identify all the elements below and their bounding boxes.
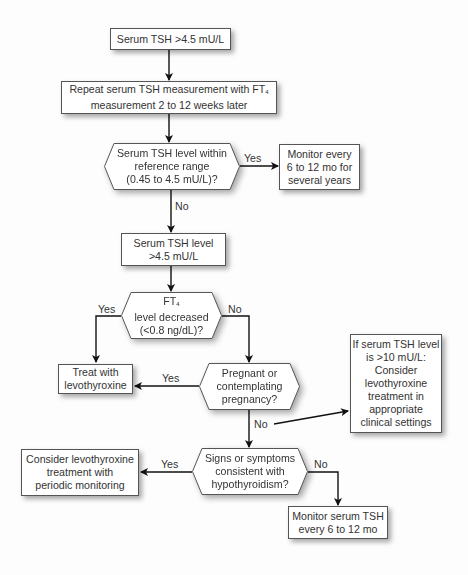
node-within-range: Serum TSH level within reference range (… <box>104 143 240 190</box>
node-within-line-1: Serum TSH level within <box>117 147 227 160</box>
node-consider-line-2: treatment with <box>47 466 114 479</box>
node-monitor-tsh: Monitor serum TSH every 6 to 12 mo <box>288 506 388 539</box>
node-tsh10-line-4: levothyroxine <box>365 377 427 390</box>
node-tsh-over-10: If serum TSH level is >10 mU/L: Consider… <box>350 334 442 433</box>
edge-ft4-no <box>222 316 249 362</box>
node-tsh10-line-7: clinical settings <box>360 416 431 429</box>
node-monitor-years-line-1: Monitor every <box>287 148 351 161</box>
label-signs-no: No <box>314 458 328 470</box>
label-pregnant-no: No <box>254 418 268 430</box>
node-tsh-high-line-2: >4.5 mU/L <box>149 250 198 263</box>
node-tsh10-line-6: appropriate <box>369 403 423 416</box>
node-signs-line-3: hypothyroidism? <box>211 478 288 491</box>
node-repeat: Repeat serum TSH measurement with FT4 me… <box>61 81 277 114</box>
node-monitor-tsh-line-2: every 6 to 12 mo <box>299 523 378 536</box>
node-monitor-years-line-3: several years <box>288 174 351 187</box>
edge-pregnant-no-right <box>274 411 348 424</box>
node-signs-symptoms: Signs or symptoms consistent with hypoth… <box>192 448 308 495</box>
node-repeat-line-2: measurement 2 to 12 weeks later <box>91 99 248 112</box>
node-tsh-high: Serum TSH level >4.5 mU/L <box>121 233 226 266</box>
node-monitor-years-line-2: 6 to 12 mo for <box>287 161 352 174</box>
node-monitor-years: Monitor every 6 to 12 mo for several yea… <box>279 144 360 190</box>
label-within-no: No <box>175 200 189 212</box>
node-tsh-high-line-1: Serum TSH level <box>134 237 214 250</box>
node-ft4-line-3: (<0.8 ng/dL)? <box>140 324 203 337</box>
label-within-yes: Yes <box>244 152 261 164</box>
node-consider-periodic: Consider levothyroxine treatment with pe… <box>21 449 139 496</box>
node-start: Serum TSH >4.5 mU/L <box>110 28 231 50</box>
node-repeat-line-1: Repeat serum TSH measurement with FT4 <box>69 83 268 99</box>
node-within-line-3: (0.45 to 4.5 mU/L)? <box>126 173 217 186</box>
node-tsh10-line-2: is >10 mU/L: <box>366 351 426 364</box>
node-pregnant-line-2: contemplating <box>217 380 283 393</box>
node-signs-line-2: consistent with <box>215 465 284 478</box>
node-consider-line-3: periodic monitoring <box>35 479 125 492</box>
label-signs-yes: Yes <box>161 458 178 470</box>
node-pregnant-line-1: Pregnant or <box>222 367 277 380</box>
node-tsh10-line-1: If serum TSH level <box>353 338 440 351</box>
flowchart-canvas: Serum TSH >4.5 mU/L Repeat serum TSH mea… <box>0 0 468 575</box>
edge-ft4-yes <box>96 316 121 362</box>
node-treat-line-2: levothyroxine <box>64 379 126 392</box>
node-pregnant-line-3: pregnancy? <box>222 393 277 406</box>
node-ft4-line-1: FT4 <box>163 295 179 311</box>
node-treat-line-1: Treat with <box>72 366 118 379</box>
node-consider-line-1: Consider levothyroxine <box>26 453 134 466</box>
node-start-text: Serum TSH >4.5 mU/L <box>117 33 224 46</box>
edge-signs-no <box>308 472 338 505</box>
node-ft4-decreased: FT4 level decreased (<0.8 ng/dL)? <box>121 292 222 339</box>
node-treat: Treat with levothyroxine <box>58 364 133 394</box>
node-within-line-2: reference range <box>135 160 210 173</box>
label-ft4-no: No <box>228 303 242 315</box>
label-ft4-yes: Yes <box>98 303 115 315</box>
node-tsh10-line-5: treatment in <box>368 390 424 403</box>
node-signs-line-1: Signs or symptoms <box>205 452 295 465</box>
node-tsh10-line-3: Consider <box>375 364 417 377</box>
node-pregnant: Pregnant or contemplating pregnancy? <box>199 363 300 410</box>
node-ft4-line-2: level decreased <box>134 311 208 324</box>
node-monitor-tsh-line-1: Monitor serum TSH <box>292 510 384 523</box>
label-pregnant-yes: Yes <box>162 372 179 384</box>
